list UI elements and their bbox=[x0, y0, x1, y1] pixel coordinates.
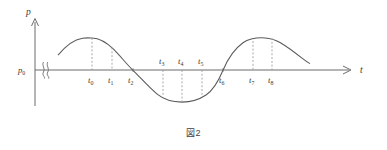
tick-label-t4: t4 bbox=[178, 56, 183, 67]
figure-caption: 図2 bbox=[0, 126, 387, 139]
tick-label-t8: t8 bbox=[268, 75, 273, 86]
tick-label-t7: t7 bbox=[249, 75, 254, 86]
tick-label-t5: t5 bbox=[198, 56, 203, 67]
tick-label-t2: t2 bbox=[128, 75, 133, 86]
tick-label-t0: t0 bbox=[88, 75, 93, 86]
x-axis-label: t bbox=[360, 65, 363, 75]
baseline-label-sub: 0 bbox=[22, 70, 25, 76]
tick-label-t3: t3 bbox=[159, 56, 164, 67]
tick-label-t1: t1 bbox=[108, 75, 113, 86]
y-axis-label: p bbox=[25, 7, 31, 17]
tick-label-t6: t6 bbox=[219, 75, 224, 86]
baseline-label: p0 bbox=[17, 65, 25, 76]
figure-container: p t p0 t0 t1 t2 t3 t4 t5 t6 t7 t8 図2 bbox=[0, 0, 387, 150]
